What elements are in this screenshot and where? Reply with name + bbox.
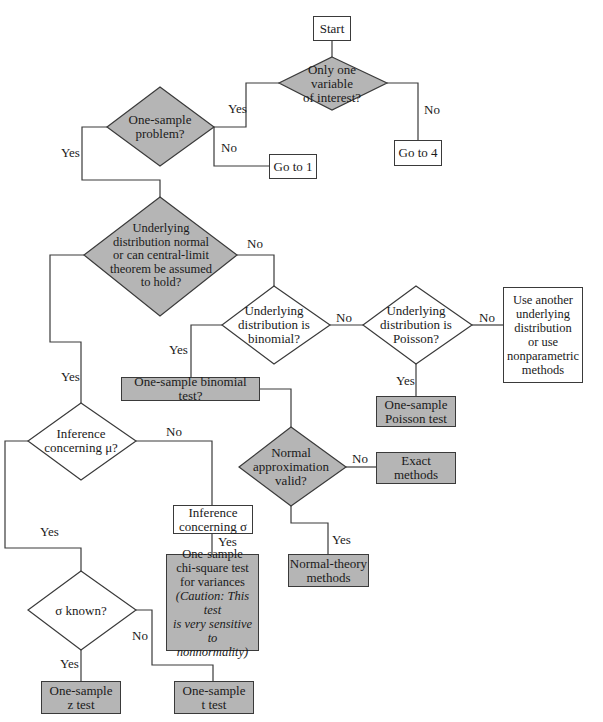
normal-approx-text: Normal approximation valid? xyxy=(244,444,338,490)
edge-label-approx-yes: Yes xyxy=(332,533,351,547)
exact-methods-box: Exact methods xyxy=(376,452,456,484)
edge-label-only-one-no: No xyxy=(424,103,440,117)
edge-label-mu-no: No xyxy=(166,425,182,439)
edge-label-known-yes: Yes xyxy=(60,657,79,671)
poisson-text: Underlying distribution is Poisson? xyxy=(368,302,464,348)
start-label: Start xyxy=(320,22,345,36)
one-sample-problem-text: One-sample problem? xyxy=(117,110,203,144)
edge-label-only-one-yes: Yes xyxy=(228,102,247,116)
edge-label-poisson-no: No xyxy=(479,311,495,325)
t-test-box: One-sample t test xyxy=(174,681,254,714)
binomial-text: Underlying distribution is binomial? xyxy=(226,302,322,348)
z-test-label: One-sample z test xyxy=(50,684,113,712)
edge-label-mu-yes: Yes xyxy=(40,525,59,539)
only-one-variable-text: Only one variable of interest? xyxy=(289,60,375,108)
use-another-label: Use another underlying distribution or u… xyxy=(507,293,579,377)
go-to-1-label: Go to 1 xyxy=(274,160,313,174)
start-box: Start xyxy=(313,16,351,41)
edge-label-sigma-yes: Yes xyxy=(218,535,237,549)
poisson-test-box: One-sample Poisson test xyxy=(376,396,456,427)
edge-label-one-sample-no: No xyxy=(221,141,237,155)
normal-theory-label: Normal-theory methods xyxy=(290,557,367,585)
binomial-test-box: One-sample binomial test? xyxy=(121,377,260,401)
binomial-test-label: One-sample binomial test? xyxy=(122,375,259,403)
edge-label-normal-yes: Yes xyxy=(61,370,80,384)
edge-label-binomial-yes: Yes xyxy=(169,343,188,357)
go-to-4-label: Go to 4 xyxy=(399,146,438,160)
edge-label-normal-no: No xyxy=(247,237,263,251)
edge-label-poisson-yes: Yes xyxy=(396,374,415,388)
edge-label-binomial-no: No xyxy=(336,311,352,325)
sigma-known-text: σ known? xyxy=(34,603,128,619)
exact-methods-label: Exact methods xyxy=(394,454,438,482)
chi-square-caution: (Caution: This test is very sensitive to… xyxy=(167,589,258,659)
go-to-4-box: Go to 4 xyxy=(394,140,442,166)
underlying-normal-text: Underlying distribution normal or can ce… xyxy=(94,220,228,292)
chi-square-label: One-sample chi-square test for variances xyxy=(176,547,249,589)
poisson-test-label: One-sample Poisson test xyxy=(385,398,448,426)
edge-label-approx-no: No xyxy=(352,452,368,466)
chi-square-box: One-sample chi-square test for variances… xyxy=(166,554,259,651)
inference-mu-text: Inference concerning μ? xyxy=(34,425,128,457)
inference-sigma-box: Inference concerning σ xyxy=(173,505,253,534)
edge-label-one-sample-yes: Yes xyxy=(61,146,80,160)
inference-sigma-label: Inference concerning σ xyxy=(179,506,247,534)
t-test-label: One-sample t test xyxy=(183,684,246,712)
z-test-box: One-sample z test xyxy=(41,681,121,714)
use-another-box: Use another underlying distribution or u… xyxy=(503,287,583,383)
edge-label-known-no: No xyxy=(132,629,148,643)
normal-theory-box: Normal-theory methods xyxy=(288,554,369,587)
go-to-1-box: Go to 1 xyxy=(269,154,317,179)
